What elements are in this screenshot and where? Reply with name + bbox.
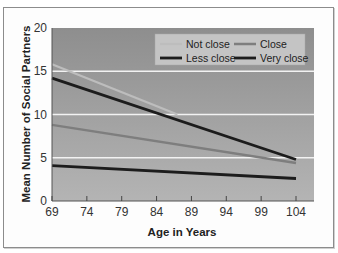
y-axis-title: Mean Number of Social Partners	[20, 25, 32, 202]
legend-label: Very close	[260, 52, 309, 64]
legend: Not closeCloseLess closeVery close	[155, 34, 309, 65]
y-tick-label: 0	[40, 194, 47, 208]
y-tick-label: 20	[34, 21, 48, 35]
x-tick-label: 74	[80, 205, 94, 219]
legend-label: Less close	[186, 52, 236, 64]
x-tick-label: 79	[115, 205, 129, 219]
x-tick-label: 99	[254, 205, 268, 219]
x-tick-label: 84	[150, 205, 164, 219]
x-tick-label: 94	[220, 205, 234, 219]
y-tick-label: 10	[34, 108, 48, 122]
y-tick-label: 15	[34, 64, 48, 78]
y-axis-ticks: 05101520	[34, 21, 48, 208]
legend-label: Close	[260, 38, 287, 50]
legend-label: Not close	[186, 38, 230, 50]
x-tick-label: 69	[45, 205, 59, 219]
x-tick-label: 89	[185, 205, 199, 219]
y-tick-label: 5	[40, 151, 47, 165]
x-axis-title: Age in Years	[148, 226, 217, 238]
x-tick-label: 104	[286, 205, 306, 219]
line-chart: 69747984899499104 05101520 Age in Years …	[0, 0, 338, 253]
